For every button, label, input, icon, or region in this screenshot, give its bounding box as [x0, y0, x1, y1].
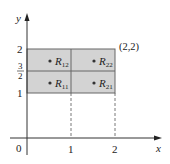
- region-subscript: 12: [62, 61, 70, 69]
- y-tick-fraction-numerator: 3: [18, 61, 23, 71]
- corner-point-label: (2,2): [119, 41, 140, 53]
- region-partition-diagram: y x 0 1 2 2 1 3 2 (2,2) R12 R22 R11 R21: [0, 0, 170, 164]
- x-tick-2: 2: [112, 143, 118, 155]
- y-tick-2: 2: [17, 43, 23, 55]
- x-axis-arrow-icon: [154, 136, 162, 141]
- y-axis-arrow-icon: [25, 13, 30, 21]
- y-axis-label: y: [15, 12, 21, 24]
- region-subscript: 22: [106, 61, 114, 69]
- sample-point-dot-icon: [48, 59, 51, 62]
- x-tick-1: 1: [68, 143, 74, 155]
- region-subscript: 21: [106, 83, 114, 91]
- region-subscript: 11: [62, 83, 69, 91]
- sample-point-dot-icon: [92, 81, 95, 84]
- y-tick-1: 1: [17, 87, 23, 99]
- sample-point-dot-icon: [92, 59, 95, 62]
- x-axis-label: x: [155, 142, 161, 154]
- origin-label: 0: [16, 142, 22, 154]
- sample-point-dot-icon: [48, 81, 51, 84]
- y-tick-fraction-denominator: 2: [18, 71, 23, 81]
